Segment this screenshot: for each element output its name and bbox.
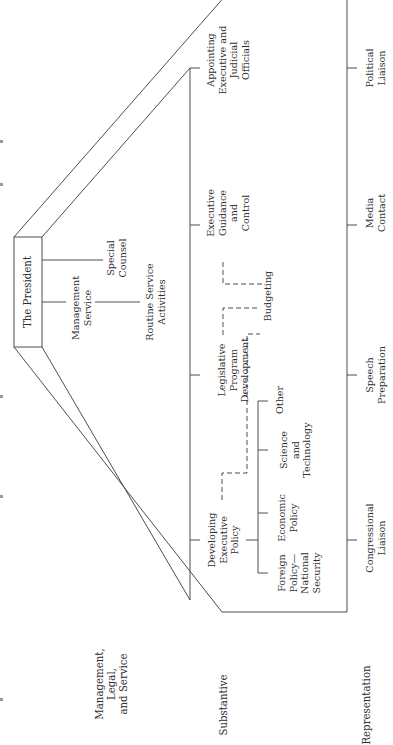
cropped-text-fragment — [0, 495, 3, 498]
science-technology-label: Science and Technology — [278, 422, 313, 477]
media-contact-label: Media Contact — [364, 194, 387, 232]
cropped-text-fragment — [0, 140, 3, 143]
special-counsel-label: Special Counsel — [105, 238, 128, 277]
congressional-liaison-label: Congressional Liaison — [364, 503, 387, 572]
cropped-text-fragment — [0, 183, 3, 186]
cropped-text-fragment — [0, 395, 3, 398]
budgeting-label: Budgeting — [262, 271, 274, 321]
other-label: Other — [274, 386, 286, 414]
economic-policy-label: Economic Policy — [276, 494, 299, 542]
tier-label-substantive: Substantive — [218, 674, 230, 735]
tier-label-management: Management, Legal, and Service — [94, 648, 130, 719]
speech-preparation-label: Speech Preparation — [364, 346, 387, 404]
president-label: The President — [22, 256, 34, 328]
tier-label-representation: Representation — [361, 665, 373, 744]
management-service-label: Management Service — [70, 276, 93, 340]
developing-executive-policy-label: Developing Executive Policy — [206, 513, 241, 568]
appointing-officials-label: Appointing Executive and Judicial Offici… — [205, 26, 251, 95]
cropped-text-fragment — [0, 698, 3, 701]
foreign-policy-national-security-label: Foreign Policy— National Security — [276, 552, 322, 594]
legislative-program-development-label: Legislative Program Development — [216, 338, 251, 402]
political-liaison-label: Political Liaison — [364, 48, 387, 87]
routine-service-activities-label: Routine Service Activities — [144, 263, 167, 340]
executive-guidance-control-label: Executive Guidance and Control — [205, 189, 251, 237]
